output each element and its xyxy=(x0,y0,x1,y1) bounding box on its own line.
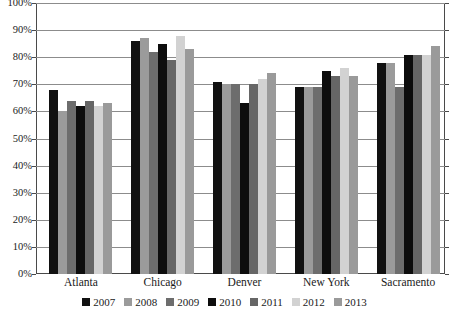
y-axis-tick-mark xyxy=(32,247,36,248)
y-axis-tick-mark-right xyxy=(445,139,449,140)
y-axis-tick-label: 70% xyxy=(0,78,32,89)
bar xyxy=(94,106,103,274)
y-axis-tick-mark xyxy=(32,30,36,31)
bar xyxy=(222,84,231,274)
legend-swatch-icon xyxy=(250,298,258,306)
y-axis-tick-mark xyxy=(32,3,36,4)
bar xyxy=(377,63,386,274)
y-axis-tick-label: 40% xyxy=(0,160,32,171)
bar xyxy=(258,79,267,274)
x-axis-category-label: Denver xyxy=(228,276,262,288)
bar-group xyxy=(131,3,194,274)
bar-group xyxy=(377,3,440,274)
y-axis-tick-label: 0% xyxy=(0,268,32,279)
y-axis-tick-mark xyxy=(32,111,36,112)
bar xyxy=(340,68,349,274)
y-axis-tick-mark xyxy=(32,84,36,85)
bar xyxy=(295,87,304,274)
bar xyxy=(213,82,222,274)
legend-label: 2013 xyxy=(345,296,367,308)
bar xyxy=(85,101,94,274)
y-axis-tick-mark-right xyxy=(445,30,449,31)
bar xyxy=(103,103,112,274)
y-axis-tick-mark xyxy=(32,57,36,58)
y-axis-tick-mark-right xyxy=(445,3,449,4)
bar xyxy=(49,90,58,274)
legend-swatch-icon xyxy=(124,298,132,306)
legend-item: 2010 xyxy=(208,296,241,308)
y-axis-tick-mark-right xyxy=(445,220,449,221)
bar xyxy=(395,87,404,274)
plot-area xyxy=(36,3,445,274)
bar xyxy=(422,55,431,275)
y-axis-tick-mark-right xyxy=(445,193,449,194)
y-axis-tick-mark-right xyxy=(445,247,449,248)
bar xyxy=(158,44,167,274)
bar xyxy=(131,41,140,274)
y-axis-tick-label: 100% xyxy=(0,0,32,8)
legend-item: 2012 xyxy=(292,296,325,308)
legend-item: 2013 xyxy=(334,296,367,308)
legend-item: 2009 xyxy=(166,296,199,308)
legend-label: 2012 xyxy=(303,296,325,308)
legend-item: 2007 xyxy=(82,296,115,308)
bar xyxy=(67,101,76,274)
legend-swatch-icon xyxy=(208,298,216,306)
x-axis-category-labels: AtlantaChicagoDenverNew YorkSacramento xyxy=(36,276,445,292)
y-axis-tick-label: 60% xyxy=(0,105,32,116)
bar xyxy=(249,84,258,274)
bar xyxy=(149,52,158,274)
y-axis-tick-label: 30% xyxy=(0,187,32,198)
bar xyxy=(267,73,276,274)
bar xyxy=(176,36,185,274)
bar xyxy=(331,76,340,274)
legend-item: 2011 xyxy=(250,296,283,308)
bar-group xyxy=(295,3,358,274)
y-axis-tick-label: 20% xyxy=(0,214,32,225)
bar xyxy=(431,46,440,274)
legend-label: 2008 xyxy=(135,296,157,308)
x-axis-category-label: Sacramento xyxy=(381,276,435,288)
x-axis-category-label: Atlanta xyxy=(64,276,98,288)
y-axis-tick-label: 90% xyxy=(0,24,32,35)
bar xyxy=(58,111,67,274)
y-axis-tick-mark-right xyxy=(445,111,449,112)
legend-label: 2010 xyxy=(219,296,241,308)
y-axis-tick-mark-right xyxy=(445,57,449,58)
bar xyxy=(322,71,331,274)
y-axis-tick-mark-right xyxy=(445,84,449,85)
y-axis-tick-mark xyxy=(32,139,36,140)
y-axis-tick-mark xyxy=(32,274,36,275)
bar xyxy=(231,84,240,274)
legend-label: 2011 xyxy=(261,296,283,308)
bar-chart: 100%90%80%70%60%50%40%30%20%10%0% Atlant… xyxy=(0,0,449,311)
y-axis-tick-label: 80% xyxy=(0,51,32,62)
legend-swatch-icon xyxy=(82,298,90,306)
legend-label: 2007 xyxy=(93,296,115,308)
bar xyxy=(167,60,176,274)
bar-group xyxy=(49,3,112,274)
bar xyxy=(76,106,85,274)
legend-item: 2008 xyxy=(124,296,157,308)
y-axis-tick-mark xyxy=(32,193,36,194)
bar xyxy=(349,76,358,274)
legend-label: 2009 xyxy=(177,296,199,308)
y-axis-tick-mark xyxy=(32,166,36,167)
chart-legend: 2007200820092010201120122013 xyxy=(0,294,449,310)
y-axis-tick-mark-right xyxy=(445,166,449,167)
x-axis-category-label: Chicago xyxy=(144,276,182,288)
y-axis-tick-label: 10% xyxy=(0,241,32,252)
y-axis-tick-label: 50% xyxy=(0,133,32,144)
bar xyxy=(313,87,322,274)
legend-swatch-icon xyxy=(166,298,174,306)
legend-swatch-icon xyxy=(292,298,300,306)
bar xyxy=(404,55,413,275)
bar xyxy=(140,38,149,274)
bar xyxy=(413,55,422,275)
bar-group xyxy=(213,3,276,274)
y-axis-tick-mark-right xyxy=(445,274,449,275)
bar xyxy=(240,103,249,274)
bar xyxy=(185,49,194,274)
bar xyxy=(386,63,395,274)
bar xyxy=(304,87,313,274)
